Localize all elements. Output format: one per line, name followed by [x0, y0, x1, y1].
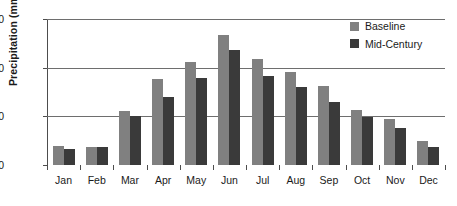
- legend-label-baseline: Baseline: [365, 21, 405, 32]
- x-label-apr: Apr: [147, 175, 180, 195]
- x-axis-labels: JanFebMarAprMayJunJulAugSepOctNovDec: [47, 175, 445, 195]
- bar-apr-baseline: [152, 79, 163, 165]
- bar-group-may: [180, 19, 213, 165]
- x-label-sep: Sep: [312, 175, 345, 195]
- x-tick-mark-11: [412, 165, 413, 170]
- x-tick-mark-4: [180, 165, 181, 170]
- bar-feb-mid-century: [97, 147, 108, 165]
- bar-jan-baseline: [53, 146, 64, 165]
- bar-jun-baseline: [218, 35, 229, 165]
- x-axis-tick-marks: [47, 165, 445, 170]
- bar-may-mid-century: [196, 78, 207, 165]
- x-tick-mark-5: [213, 165, 214, 170]
- bar-sep-mid-century: [329, 102, 340, 165]
- bar-oct-mid-century: [362, 117, 373, 165]
- bar-mar-mid-century: [130, 116, 141, 165]
- bar-group-sep: [312, 19, 345, 165]
- legend-swatch-icon-mid-century: [350, 39, 359, 48]
- bar-may-baseline: [185, 62, 196, 165]
- bar-dec-baseline: [417, 141, 428, 165]
- bar-nov-mid-century: [395, 128, 406, 165]
- x-tick-mark-6: [246, 165, 247, 170]
- bar-jul-mid-century: [263, 76, 274, 165]
- x-label-jun: Jun: [213, 175, 246, 195]
- bar-dec-mid-century: [428, 147, 439, 165]
- bar-mar-baseline: [119, 111, 130, 166]
- x-tick-mark-3: [147, 165, 148, 170]
- bar-group-feb: [80, 19, 113, 165]
- bar-group-jul: [246, 19, 279, 165]
- legend-swatch-icon-baseline: [350, 22, 359, 31]
- x-tick-mark-12: [445, 165, 446, 170]
- y-tick-label-50: 50: [0, 111, 4, 122]
- x-tick-mark-1: [80, 165, 81, 170]
- y-tick-label-0: 0: [0, 160, 4, 171]
- x-tick-mark-2: [113, 165, 114, 170]
- x-label-mar: Mar: [113, 175, 146, 195]
- y-axis-title: Precipitation (mm): [7, 0, 25, 99]
- legend-item-baseline: Baseline: [350, 21, 422, 32]
- x-tick-mark-7: [279, 165, 280, 170]
- bar-group-jan: [47, 19, 80, 165]
- x-tick-mark-9: [346, 165, 347, 170]
- bar-group-aug: [279, 19, 312, 165]
- bar-nov-baseline: [384, 119, 395, 165]
- legend: Baseline Mid-Century: [350, 21, 422, 49]
- x-label-aug: Aug: [279, 175, 312, 195]
- x-label-may: May: [180, 175, 213, 195]
- bar-group-apr: [147, 19, 180, 165]
- legend-label-mid-century: Mid-Century: [365, 39, 422, 50]
- bar-jan-mid-century: [64, 149, 75, 165]
- bar-sep-baseline: [318, 86, 329, 165]
- x-label-jul: Jul: [246, 175, 279, 195]
- legend-item-mid-century: Mid-Century: [350, 39, 422, 50]
- precipitation-bar-chart: Precipitation (mm) 050100150 JanFebMarAp…: [0, 0, 457, 206]
- bar-group-jun: [213, 19, 246, 165]
- x-tick-mark-8: [312, 165, 313, 170]
- y-tick-label-100: 100: [0, 63, 4, 74]
- x-tick-mark-0: [47, 165, 48, 170]
- x-label-dec: Dec: [412, 175, 445, 195]
- bar-feb-baseline: [86, 147, 97, 165]
- x-tick-mark-10: [379, 165, 380, 170]
- bar-group-mar: [113, 19, 146, 165]
- bar-jun-mid-century: [229, 50, 240, 165]
- y-tick-label-150: 150: [0, 14, 4, 25]
- bar-oct-baseline: [351, 110, 362, 165]
- x-label-nov: Nov: [379, 175, 412, 195]
- bar-aug-mid-century: [296, 87, 307, 165]
- bar-jul-baseline: [252, 59, 263, 165]
- bar-apr-mid-century: [163, 97, 174, 165]
- bar-aug-baseline: [285, 72, 296, 165]
- x-label-feb: Feb: [80, 175, 113, 195]
- x-label-oct: Oct: [346, 175, 379, 195]
- x-label-jan: Jan: [47, 175, 80, 195]
